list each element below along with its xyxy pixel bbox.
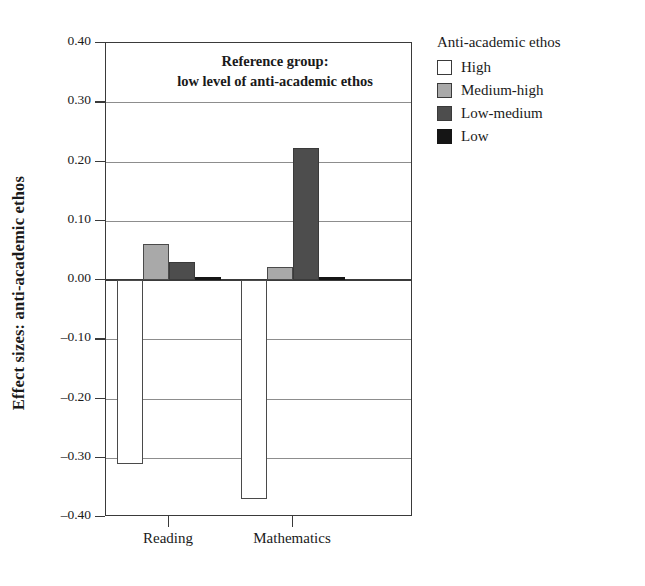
y-axis-tick-label: –0.10	[61, 329, 91, 345]
y-axis-tick-label: 0.40	[67, 33, 91, 49]
legend: Anti-academic ethos HighMedium-highLow-m…	[437, 34, 637, 151]
annotation-line-2: low level of anti-academic ethos	[150, 72, 400, 92]
gridline	[106, 162, 411, 163]
legend-item-mediumhigh[interactable]: Medium-high	[437, 82, 637, 99]
reference-group-annotation: Reference group: low level of anti-acade…	[150, 52, 400, 91]
bar-reading-mediumhigh	[143, 244, 169, 280]
bar-mathematics-high	[241, 280, 267, 499]
legend-items: HighMedium-highLow-mediumLow	[437, 59, 637, 145]
legend-item-low[interactable]: Low	[437, 128, 637, 145]
y-axis-tick-mark	[95, 101, 105, 102]
gridline	[106, 102, 411, 103]
bar-mathematics-lowmedium	[293, 148, 319, 280]
effect-sizes-bar-chart: Effect sizes: anti-academic ethos 0.400.…	[0, 0, 645, 586]
plot-area	[105, 42, 412, 516]
legend-title: Anti-academic ethos	[437, 34, 637, 51]
legend-item-high[interactable]: High	[437, 59, 637, 76]
y-axis-tick-label: 0.20	[67, 152, 91, 168]
y-axis-tick-label: –0.40	[61, 507, 91, 523]
bar-reading-high	[117, 280, 143, 464]
legend-item-label: Medium-high	[461, 82, 544, 99]
y-axis-tick-mark	[95, 42, 105, 43]
legend-item-label: Low	[461, 128, 489, 145]
y-axis-tick-label: 0.00	[67, 270, 91, 286]
y-axis-tick-label: 0.30	[67, 92, 91, 108]
x-axis-tick	[292, 516, 293, 527]
y-axis-tick-mark	[95, 516, 105, 517]
y-axis-tick-label: –0.30	[61, 448, 91, 464]
y-axis-tick-mark	[95, 338, 105, 339]
gridline	[106, 221, 411, 222]
y-axis-tick-mark	[95, 398, 105, 399]
bar-reading-low	[195, 277, 221, 280]
y-axis-tick-label: 0.10	[67, 211, 91, 227]
legend-item-label: Low-medium	[461, 105, 543, 122]
x-axis-label-mathematics: Mathematics	[253, 530, 330, 547]
bar-mathematics-low	[319, 277, 345, 280]
bar-reading-lowmedium	[169, 262, 195, 280]
y-axis-tick-mark	[95, 457, 105, 458]
y-axis-tick-label: –0.20	[61, 389, 91, 405]
x-axis-tick	[168, 516, 169, 527]
y-axis-tick-mark	[95, 161, 105, 162]
y-axis-ticks: 0.400.300.200.100.00–0.10–0.20–0.30–0.40	[0, 0, 105, 586]
legend-swatch-low-icon	[437, 129, 452, 144]
legend-item-label: High	[461, 59, 491, 76]
legend-item-lowmedium[interactable]: Low-medium	[437, 105, 637, 122]
y-axis-tick-mark	[95, 220, 105, 221]
bar-mathematics-mediumhigh	[267, 267, 293, 280]
y-axis-tick-mark	[95, 279, 105, 280]
legend-swatch-high-icon	[437, 60, 452, 75]
legend-swatch-lowmedium-icon	[437, 106, 452, 121]
legend-swatch-mediumhigh-icon	[437, 83, 452, 98]
annotation-line-1: Reference group:	[150, 52, 400, 72]
x-axis-label-reading: Reading	[143, 530, 193, 547]
